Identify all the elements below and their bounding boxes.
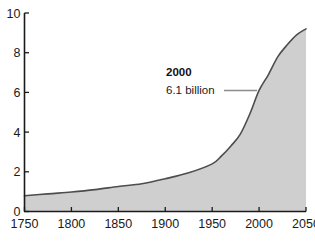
x-axis-tick-label: 1900 [151,217,179,231]
annotation-year-label: 2000 [166,66,192,78]
x-axis-tick-label: 2050 [292,217,315,231]
x-axis-tick-label: 1950 [198,217,226,231]
x-axis-tick-label: 1850 [104,217,132,231]
y-axis-tick-label: 4 [14,126,21,140]
x-axis-tick-label: 1750 [11,217,39,231]
population-growth-chart: 0246810 1750180018501900195020002050 200… [0,0,315,242]
annotation-value-label: 6.1 billion [166,84,215,96]
y-axis-tick-label: 2 [14,165,21,179]
y-axis-tick-label: 8 [14,46,21,60]
x-axis-tick-label: 2000 [245,217,273,231]
y-axis-tick-label: 10 [7,7,21,21]
chart-canvas: 0246810 1750180018501900195020002050 200… [0,0,315,242]
y-axis-tick-label: 6 [14,86,21,100]
x-axis-tick-label: 1800 [58,217,86,231]
